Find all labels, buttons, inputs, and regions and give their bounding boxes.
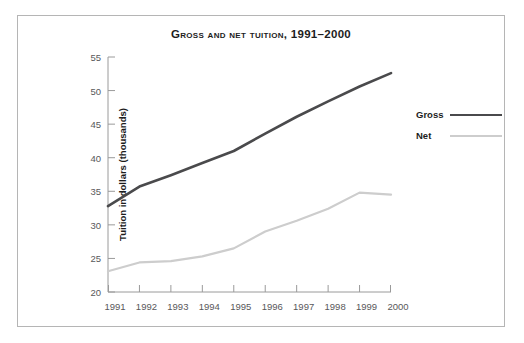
x-tick-label: 1992 (136, 301, 157, 312)
figure-frame: Gross and Net Tuition, 1991–2000 Tuition… (17, 15, 505, 327)
x-tick-label: 1994 (199, 301, 220, 312)
chart-title: Gross and Net Tuition, 1991–2000 (18, 28, 504, 40)
x-tick-label: 1999 (356, 301, 377, 312)
y-tick-label: 40 (90, 152, 101, 163)
x-tick-label: 1995 (230, 301, 251, 312)
y-tick-label: 20 (90, 287, 101, 298)
x-tick-label: 1998 (325, 301, 346, 312)
legend-item-gross: Gross (416, 104, 502, 125)
x-tick-label: 1993 (167, 301, 188, 312)
x-tick-label: 2000 (387, 301, 408, 312)
chart-legend: Gross Net (416, 104, 502, 146)
y-tick-label: 35 (90, 186, 101, 197)
legend-label-net: Net (416, 130, 450, 141)
series-line-net (108, 193, 391, 272)
legend-swatch-net (450, 135, 502, 137)
y-tick-label: 55 (90, 52, 101, 63)
series-line-gross (108, 73, 391, 206)
legend-label-gross: Gross (416, 109, 450, 120)
x-tick-label: 1997 (293, 301, 314, 312)
y-tick-label: 30 (90, 219, 101, 230)
chart-svg (108, 57, 391, 292)
x-tick-label: 1996 (262, 301, 283, 312)
series-lines (108, 73, 391, 271)
plot-area: 5550454035302520 19911992199319941995199… (108, 57, 391, 292)
y-tick-label: 50 (90, 85, 101, 96)
y-tick-label: 25 (90, 253, 101, 264)
legend-swatch-gross (450, 114, 502, 116)
legend-item-net: Net (416, 125, 502, 146)
x-tick-label: 1991 (104, 301, 125, 312)
y-tick-label: 45 (90, 119, 101, 130)
